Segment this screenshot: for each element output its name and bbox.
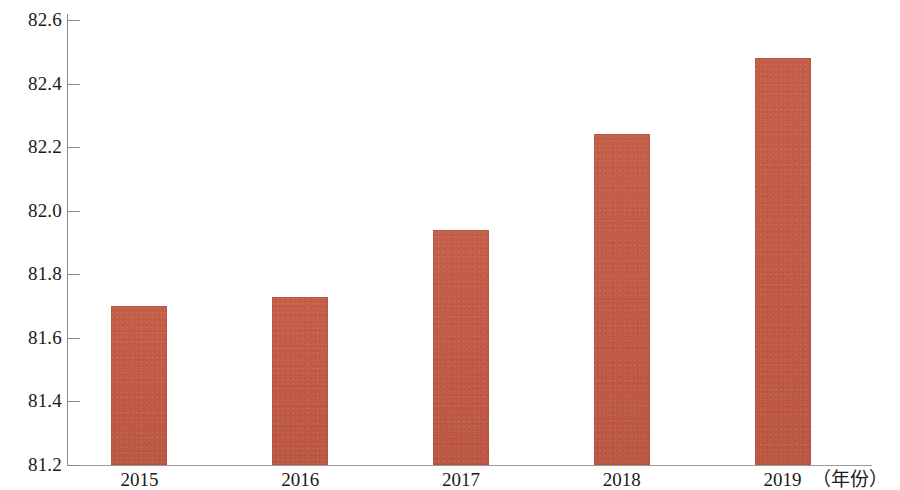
y-axis-tick-label: 81.4 <box>4 391 62 410</box>
y-axis-tick-label: 81.2 <box>4 455 62 474</box>
bar-2015 <box>111 306 167 465</box>
x-axis-tick-label: 2016 <box>220 469 381 490</box>
y-axis-tick-label: 81.6 <box>4 328 62 347</box>
y-axis-tick-label: 82.4 <box>4 74 62 93</box>
bar-2016 <box>272 297 328 465</box>
bar-2018 <box>594 134 650 465</box>
y-axis-tick-label: 82.6 <box>4 10 62 29</box>
bar-2019 <box>755 58 811 465</box>
y-axis-tick-label: 82.2 <box>4 137 62 156</box>
bar-chart: 81.281.481.681.882.082.282.482.6 2015201… <box>0 0 900 490</box>
x-axis-title: （年份） <box>812 469 888 490</box>
x-axis-tick-label: 2015 <box>59 469 220 490</box>
x-axis-tick-label: 2017 <box>381 469 542 490</box>
plot-area <box>68 14 872 465</box>
x-axis-line <box>68 465 872 466</box>
y-axis-tick-label: 81.8 <box>4 264 62 283</box>
y-tick-mark <box>68 465 80 466</box>
y-axis-tick-label: 82.0 <box>4 201 62 220</box>
x-axis-tick-label: 2018 <box>541 469 702 490</box>
bar-2017 <box>433 230 489 465</box>
